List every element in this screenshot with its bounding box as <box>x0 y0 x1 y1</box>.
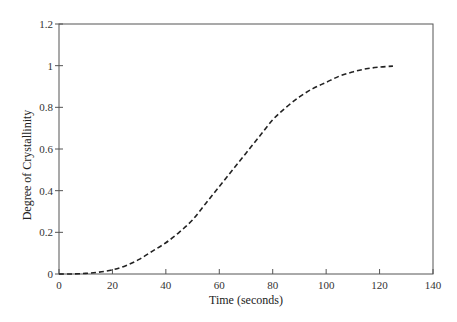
x-tick-label: 100 <box>318 279 335 291</box>
y-tick-label: 0.6 <box>39 143 53 155</box>
x-tick-label: 120 <box>371 279 388 291</box>
x-tick-label: 0 <box>56 279 62 291</box>
x-tick-label: 80 <box>267 279 279 291</box>
y-tick-label: 0.2 <box>39 226 53 238</box>
y-tick-label: 1.2 <box>39 18 53 30</box>
crystallinity-curve <box>59 66 393 274</box>
y-tick-label: 0 <box>48 268 54 280</box>
crystallinity-chart: 020406080100120140 00.20.40.60.811.2 Tim… <box>0 0 457 322</box>
y-tick-label: 0.4 <box>39 185 53 197</box>
y-tick-label: 1 <box>48 60 54 72</box>
x-tick-label: 60 <box>214 279 226 291</box>
x-axis-title: Time (seconds) <box>209 293 283 307</box>
y-tick-label: 0.8 <box>39 101 53 113</box>
plot-frame <box>59 24 433 274</box>
x-tick-label: 140 <box>425 279 442 291</box>
x-tick-label: 20 <box>107 279 119 291</box>
y-axis-title: Degree of Crystallinity <box>20 110 34 221</box>
x-axis-ticks: 020406080100120140 <box>56 269 442 291</box>
x-tick-label: 40 <box>160 279 172 291</box>
